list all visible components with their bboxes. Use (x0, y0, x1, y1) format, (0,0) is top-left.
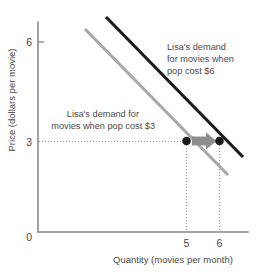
y-tick-label-6: 6 (26, 36, 32, 48)
demand-shift-chart: 6 3 0 5 6 Price (dollars per movie) Quan… (0, 0, 260, 274)
demand-curve-pop-cost-6 (106, 17, 243, 157)
annotation-pop-cost-6: Lisa's demand for movies when pop cost $… (167, 42, 234, 76)
shift-arrow-icon (192, 133, 217, 150)
point-quantity-6 (215, 137, 224, 146)
annotation-pop-cost-3-line-2: movies when pop cost $3 (51, 121, 155, 131)
annotation-pop-cost-6-line-2: for movies when (167, 54, 234, 64)
annotation-pop-cost-6-line-1: Lisa's demand (167, 42, 226, 52)
x-tick-label-5: 5 (184, 237, 190, 249)
y-tick-label-3: 3 (26, 136, 32, 148)
origin-label: 0 (26, 231, 32, 243)
point-quantity-5 (182, 137, 191, 146)
x-axis-title: Quantity (movies per month) (113, 254, 233, 265)
annotation-pop-cost-3-line-1: Lisa's demand for (67, 109, 139, 119)
annotation-pop-cost-3: Lisa's demand for movies when pop cost $… (51, 109, 155, 131)
annotation-pop-cost-6-line-3: pop cost $6 (167, 66, 215, 76)
x-tick-label-6: 6 (217, 237, 223, 249)
chart-guidelines (39, 142, 220, 233)
y-axis-title: Price (dollars per movie) (6, 49, 17, 152)
